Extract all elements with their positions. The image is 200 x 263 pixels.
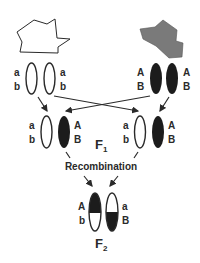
f1-left-dark-chromosome xyxy=(58,116,70,148)
label: A xyxy=(74,120,81,131)
label: A xyxy=(183,67,190,78)
label: b xyxy=(79,215,85,226)
label: A xyxy=(137,67,144,78)
right-parent-chromosome-2 xyxy=(166,63,178,94)
left-parent-chromosome-1 xyxy=(26,63,37,94)
f1-label: F1 xyxy=(95,137,108,154)
connector-line xyxy=(66,152,70,158)
right-parent-shape xyxy=(140,20,183,58)
arrow-icon xyxy=(84,176,92,186)
left-parent-shape xyxy=(17,19,70,53)
f2-label: F2 xyxy=(95,236,108,253)
f1-right-white-chromosome xyxy=(135,116,146,148)
connector-line xyxy=(134,152,138,158)
label: B xyxy=(122,215,129,226)
f1-left-white-chromosome xyxy=(41,116,52,148)
arrow-icon xyxy=(110,176,118,186)
label: b xyxy=(60,81,66,92)
f1-right-dark-chromosome xyxy=(152,116,164,148)
label: a xyxy=(14,67,20,78)
arrow-icon xyxy=(38,97,47,111)
f2-chromosome-left xyxy=(88,192,102,231)
genetic-cross-diagram: a b a b A B A B a b A B a b A B F1 Recom… xyxy=(0,0,200,263)
label: a xyxy=(123,120,129,131)
recombination-label: Recombination xyxy=(65,161,137,172)
label: b xyxy=(29,134,35,145)
label: B xyxy=(168,134,175,145)
label: a xyxy=(29,120,35,131)
label: b xyxy=(14,81,20,92)
label: b xyxy=(123,134,129,145)
left-parent-chromosome-2 xyxy=(44,63,55,94)
label: a xyxy=(60,67,66,78)
right-parent-chromosome-1 xyxy=(150,63,162,94)
arrow-icon xyxy=(54,96,138,111)
label: B xyxy=(183,81,190,92)
label: a xyxy=(122,201,128,212)
f2-chromosome-right xyxy=(105,193,119,233)
label: A xyxy=(78,201,85,212)
label: B xyxy=(74,134,81,145)
arrow-icon xyxy=(160,97,169,111)
label: A xyxy=(168,120,175,131)
label: B xyxy=(137,81,144,92)
arrow-icon xyxy=(66,96,150,111)
